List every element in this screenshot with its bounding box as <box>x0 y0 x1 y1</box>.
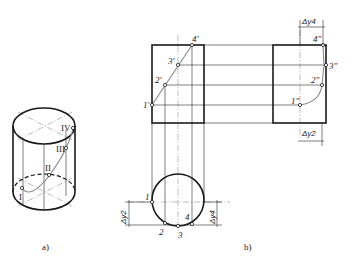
front-point-1: 1' <box>143 100 151 110</box>
point-label-IV: IV <box>61 123 71 133</box>
point-label-II: II <box>45 163 51 173</box>
orthographic-views: 1' 2' 3' 4' 1" 2" 3" 4" Δy4 Δy2 <box>119 17 338 240</box>
drawing-canvas: I II III IV a) 1' 2' 3' 4' <box>0 0 348 263</box>
dim-dy4-top: Δy4 <box>301 17 316 26</box>
front-point-4: 4' <box>192 34 200 44</box>
top-point-2: 2 <box>159 227 164 237</box>
point-label-III: III <box>56 144 65 154</box>
side-point-2: 2" <box>311 75 320 85</box>
top-point-4: 4 <box>185 212 190 222</box>
top-point-3: 3 <box>177 230 183 240</box>
isometric-cylinder: I II III IV <box>13 108 75 210</box>
side-point-3: 3" <box>328 61 338 71</box>
front-point-3: 3' <box>167 56 176 66</box>
caption-a: a) <box>42 242 49 252</box>
point-label-I: I <box>19 192 22 202</box>
caption-b: b) <box>244 242 252 252</box>
dim-dy2-bottom: Δy2 <box>301 129 316 138</box>
dim-dy4-right: Δy4 <box>208 210 217 225</box>
dim-dy2-left: Δy2 <box>119 210 128 225</box>
side-point-4: 4" <box>313 34 322 44</box>
front-point-2: 2' <box>155 75 163 85</box>
top-point-1: 1 <box>145 192 150 202</box>
side-point-1: 1" <box>291 96 300 106</box>
